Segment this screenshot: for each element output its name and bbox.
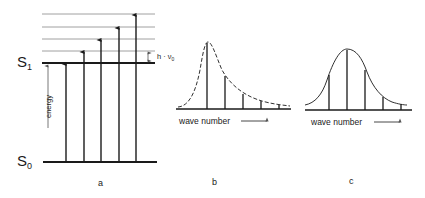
absorption-diagram: energy h · ν0 S1 S0 a wave number b (0, 0, 425, 198)
energy-axis-label: energy (44, 95, 53, 118)
panel-a-energy-levels: energy h · ν0 S1 S0 a (17, 14, 175, 188)
panel-b-xlabel: wave number (178, 116, 230, 126)
panel-c-xlabel: wave number (310, 117, 362, 127)
s1-label: S1 (17, 53, 32, 72)
panel-c-label: c (349, 176, 354, 186)
s0-label: S0 (17, 152, 32, 171)
panel-c-envelope (305, 49, 407, 105)
spacing-label: h · ν0 (157, 52, 175, 62)
panel-b-envelope (178, 42, 290, 107)
panel-b-spectrum: wave number b (176, 42, 291, 187)
panel-c-spectrum: wave number c (305, 49, 412, 186)
panel-b-label: b (212, 177, 217, 187)
panel-a-label: a (98, 178, 103, 188)
